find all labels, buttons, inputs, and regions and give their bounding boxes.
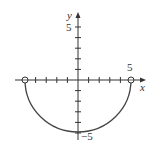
y-tick-label-top: 5 — [66, 21, 72, 33]
y-axis-label: y — [66, 9, 72, 21]
y-tick-label-bottom: −5 — [81, 130, 93, 142]
graph: y 5 5 x −5 — [0, 0, 161, 152]
x-tick-label: 5 — [127, 61, 133, 73]
x-axis-label: x — [139, 81, 145, 93]
y-axis-arrow-icon — [76, 12, 81, 18]
